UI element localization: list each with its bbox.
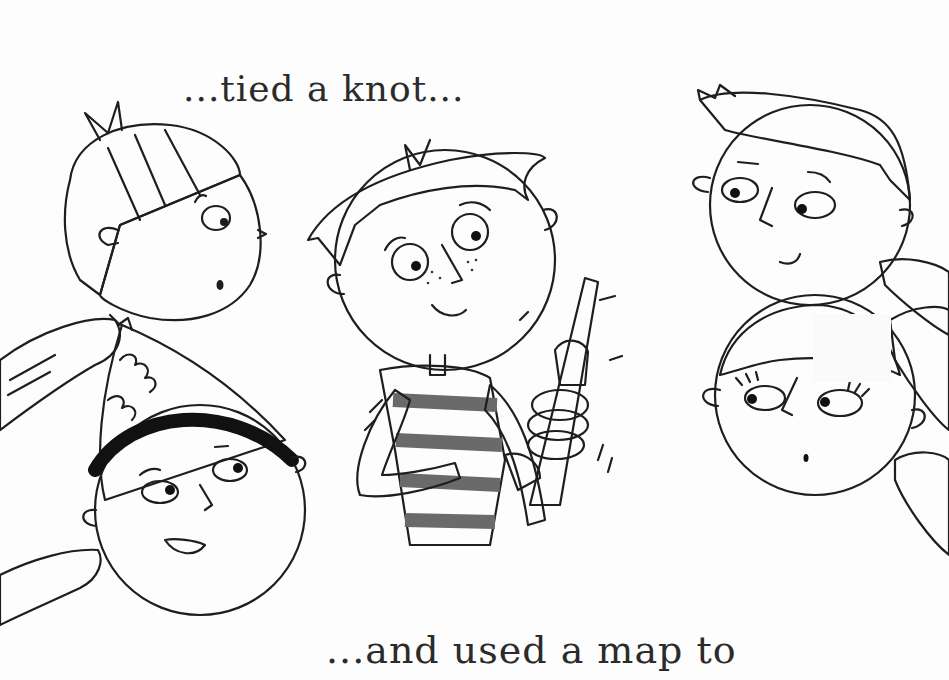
blond-boy-character [0, 102, 266, 430]
hat-boy-character [0, 315, 305, 625]
illustration-art: .ink { stroke: #1e1e1e; stroke-width: 2.… [0, 0, 949, 680]
illustration-page: .ink { stroke: #1e1e1e; stroke-width: 2.… [0, 0, 949, 680]
center-boy-character [308, 140, 622, 545]
blank-patch [813, 314, 891, 382]
caption-top: ...tied a knot... [183, 68, 464, 109]
spiky-boy-character [693, 85, 949, 335]
caption-bottom: ...and used a map to [326, 628, 737, 672]
